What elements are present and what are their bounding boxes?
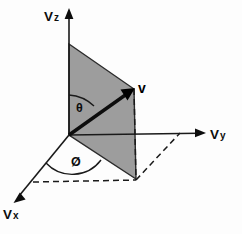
dashed-ground-diagonal bbox=[136, 133, 180, 180]
arrow-right-icon bbox=[195, 128, 206, 137]
vy-label-sub: y bbox=[220, 130, 226, 141]
vector-diagram: V z V y V x v θ Ø bbox=[0, 0, 242, 234]
vx-label-sub: x bbox=[13, 210, 19, 221]
vz-label-sub: z bbox=[54, 12, 59, 23]
arrow-down-left-icon bbox=[14, 192, 26, 203]
vy-axis-label: V y bbox=[210, 127, 226, 142]
arrow-up-icon bbox=[65, 8, 74, 19]
vz-label-main: V bbox=[44, 9, 53, 24]
vector-v-label: v bbox=[138, 80, 146, 96]
vy-label-main: V bbox=[210, 127, 219, 142]
vz-axis-label: V z bbox=[44, 9, 59, 24]
dashed-ground-horizontal bbox=[33, 180, 136, 182]
vx-label-main: V bbox=[3, 207, 12, 222]
phi-label: Ø bbox=[71, 155, 81, 169]
vx-axis-line bbox=[19, 135, 69, 196]
figure-root: V z V y V x v θ Ø bbox=[0, 0, 242, 234]
vx-axis-label: V x bbox=[3, 207, 19, 222]
theta-label: θ bbox=[76, 101, 83, 115]
